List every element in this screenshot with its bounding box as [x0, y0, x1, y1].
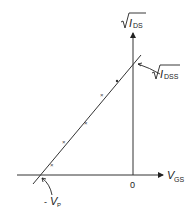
data-point: ×	[62, 139, 66, 145]
svg-text:GS: GS	[174, 176, 184, 183]
data-points: × × × ×	[50, 80, 118, 168]
x-axis-label: V GS	[167, 169, 184, 183]
svg-text:I: I	[160, 68, 163, 80]
data-point: ×	[50, 162, 54, 168]
svg-text:-: -	[44, 197, 47, 207]
vp-annotation: - V P	[42, 178, 61, 208]
data-point	[116, 80, 118, 82]
svg-text:DS: DS	[133, 22, 143, 29]
svg-text:DSS: DSS	[164, 73, 179, 80]
pointer-arrow	[42, 178, 52, 195]
origin-label: 0	[130, 180, 135, 190]
svg-text:P: P	[57, 202, 61, 208]
data-point: ×	[84, 120, 88, 126]
pointer-arrow	[138, 64, 160, 74]
transfer-characteristic-diagram: × × × × I DS I DSS V GS 0 - V P	[0, 0, 193, 210]
svg-text:I: I	[129, 17, 132, 29]
idss-annotation: I DSS	[138, 63, 180, 80]
y-axis-label: I DS	[121, 13, 146, 29]
data-point: ×	[100, 92, 104, 98]
